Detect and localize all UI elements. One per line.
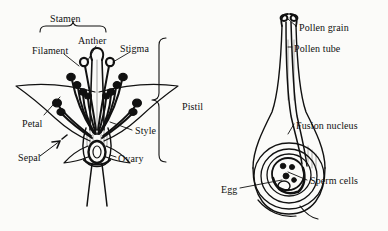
sperm-cell-nucleus-2 — [289, 164, 294, 169]
receptacle-hatching — [87, 131, 107, 146]
label-style: Style — [135, 126, 156, 136]
label-stigma: Stigma — [120, 44, 149, 54]
diagram-artwork — [0, 0, 388, 231]
label-sperm-cells: Sperm cells — [310, 176, 358, 186]
stigma-head — [91, 48, 103, 60]
label-egg: Egg — [221, 185, 237, 195]
leader-fusion-nucleus — [288, 124, 294, 134]
label-ovary: Ovary — [118, 154, 144, 164]
label-fusion-nucleus: Fusion nucleus — [296, 121, 358, 131]
pedicel — [87, 164, 107, 206]
label-stamen: Stamen — [50, 14, 81, 24]
label-petal: Petal — [22, 119, 43, 129]
embryo-nuclei — [280, 163, 296, 182]
label-anther: Anther — [78, 36, 106, 46]
leader-ovary — [110, 155, 116, 157]
fusion-nucleus-body — [283, 173, 289, 179]
sepal-arrow — [40, 135, 67, 156]
label-filament: Filament — [32, 46, 68, 56]
label-sepal: Sepal — [18, 153, 41, 163]
label-pollen-grain: Pollen grain — [299, 23, 349, 33]
sperm-cell-nucleus-1 — [280, 163, 286, 169]
label-pollen-tube: Pollen tube — [294, 44, 340, 54]
nucleus-small — [292, 178, 297, 183]
label-pistil: Pistil — [182, 102, 203, 112]
botany-diagram-figure: Stamen Anther Filament Stigma Petal Sepa… — [0, 0, 388, 231]
